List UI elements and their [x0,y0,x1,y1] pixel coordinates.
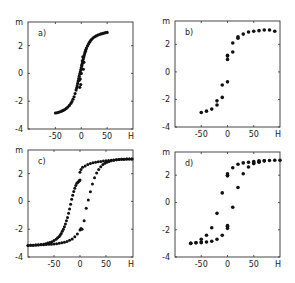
data-point [99,160,102,163]
data-point [231,166,235,170]
data-point [60,241,63,244]
data-point [125,158,128,161]
data-point [52,242,55,245]
panel-b: -50050H-4-202mb) [162,17,281,139]
x-tick-label: -50 [49,132,62,141]
data-point [247,160,251,164]
data-point [65,219,68,222]
data-point [72,190,75,193]
y-tick-label: 0 [165,68,170,77]
data-point [241,32,245,36]
data-point [236,35,240,39]
data-point [110,159,113,162]
y-tick-label: 0 [165,198,170,207]
data-point [123,158,126,161]
data-point [112,159,115,162]
data-point [32,244,35,247]
x-tick-label: -50 [47,260,60,269]
data-point [68,208,71,211]
y-tick-label: -4 [15,253,23,262]
data-point [94,161,97,164]
data-point [231,50,235,54]
data-point [78,79,81,82]
data-point [215,212,219,216]
data-point [226,58,230,62]
data-point [83,219,86,222]
data-point [97,160,100,163]
data-point [66,216,69,219]
x-axis-label: H [275,130,281,139]
data-point [268,159,272,163]
y-tick-label: 0 [18,197,23,206]
data-point [78,86,81,89]
data-point [91,183,94,186]
data-point [278,158,282,162]
data-point [71,237,74,240]
data-point [252,162,256,166]
data-point [81,55,84,58]
data-point [120,158,123,161]
data-point [45,243,48,246]
data-point [205,109,209,113]
data-point [76,233,79,236]
data-point [69,203,72,206]
x-tick-label: 50 [249,130,259,139]
data-point [273,30,277,34]
data-point [63,241,66,244]
data-point [215,99,219,103]
data-series [189,158,282,245]
data-point [89,190,92,193]
data-point [128,158,131,161]
data-point [199,111,203,115]
data-point [210,107,214,111]
data-point [85,207,88,210]
data-point [34,244,37,247]
data-point [236,162,240,166]
data-point [95,171,98,174]
data-point [210,226,214,230]
data-point [37,243,40,246]
data-point [205,233,209,237]
data-point [210,240,214,244]
y-tick-label: -2 [15,97,23,106]
y-tick-label: 2 [18,42,23,51]
data-point [67,212,70,215]
data-point [82,61,85,64]
data-series [54,31,109,115]
data-point [220,96,224,100]
data-point [42,243,45,246]
data-point [226,174,230,178]
x-axis-label: H [275,260,281,269]
data-point [226,54,230,58]
data-point [80,72,83,75]
x-tick-label: 50 [249,260,259,269]
data-point [215,103,219,107]
data-point [47,243,50,246]
data-point [215,237,219,241]
data-point [262,28,266,32]
data-point [236,186,240,190]
y-tick-label: -2 [162,95,170,104]
data-point [106,31,109,34]
x-axis-label: H [128,260,134,269]
y-tick-label: 2 [165,40,170,49]
panel-label: b) [185,28,193,37]
data-point [70,198,73,201]
y-tick-label: 2 [165,171,170,180]
data-point [241,161,245,165]
x-tick-label: 50 [101,260,111,269]
data-point [257,29,261,33]
panel-label: d) [185,159,193,168]
data-series [27,158,134,247]
y-tick-label: 2 [18,170,23,179]
data-point [262,159,266,163]
data-point [68,239,71,242]
y-axis-label: m [162,17,170,26]
x-tick-label: -50 [195,260,208,269]
x-tick-label: 0 [77,260,82,269]
data-point [91,161,94,164]
data-point [257,160,261,164]
y-axis-label: m [15,146,23,155]
data-point [220,233,224,237]
data-point [252,30,256,34]
